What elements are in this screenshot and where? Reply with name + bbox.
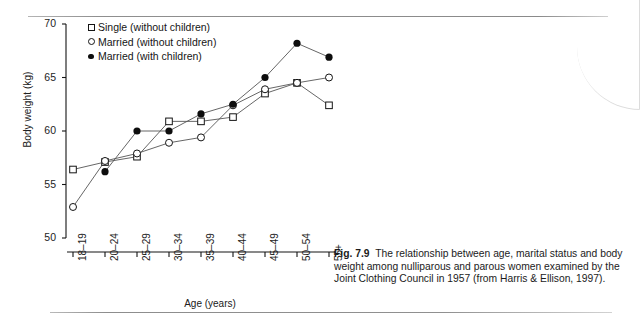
open-circle-marker-icon [84,38,98,45]
legend-item-label: Married (without children) [98,36,216,48]
legend-item: Single (without children) [84,20,216,35]
filled-circle-marker-icon [84,54,98,60]
legend-item: Married (with children) [84,49,216,64]
figure-caption: Fig. 7.9 The relationship between age, m… [334,248,626,286]
legend-item-label: Married (with children) [98,50,202,62]
figure-caption-text: The relationship between age, marital st… [334,248,623,284]
open-square-marker-icon [84,24,98,31]
page-edge-curve [577,0,640,110]
legend-item-label: Single (without children) [98,21,210,33]
figure-number: Fig. 7.9 [334,248,369,259]
chart-legend: Single (without children) Married (witho… [84,20,216,64]
legend-item: Married (without children) [84,35,216,50]
chart-figure: Body weight (kg) Age (years) 5055606570 … [0,0,360,333]
